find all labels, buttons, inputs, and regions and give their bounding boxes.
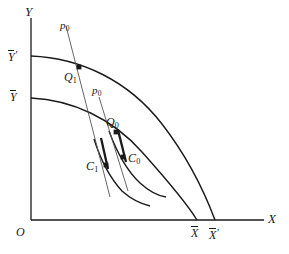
point-marker-c1 xyxy=(104,163,109,168)
point-marker-q1 xyxy=(77,65,82,70)
y-tick-label-ybar-prime: Y' xyxy=(8,49,17,63)
ppf-trade-diagram: Y X O Y' Y X X' p0 p0 Q1 Q0 C0 C1 xyxy=(0,0,289,254)
point-label-q0: Q0 xyxy=(106,116,119,130)
point-label-q1: Q1 xyxy=(64,71,77,85)
x-axis-label: X xyxy=(268,212,276,225)
ppf-outer-curve xyxy=(31,56,215,220)
y-axis-label: Y xyxy=(25,5,32,18)
diagram-canvas xyxy=(0,0,289,254)
point-label-c1: C1 xyxy=(86,160,98,174)
x-tick-label-xbar-prime: X' xyxy=(209,227,219,241)
price-line-label-1: p0 xyxy=(60,20,69,32)
origin-label: O xyxy=(16,226,25,238)
point-marker-q0 xyxy=(114,130,119,135)
point-marker-c0 xyxy=(121,155,126,160)
y-tick-label-ybar: Y xyxy=(10,91,17,103)
x-tick-label-xbar: X xyxy=(191,227,198,239)
price-line-label-2: p0 xyxy=(92,85,101,97)
point-label-c0: C0 xyxy=(128,152,140,166)
